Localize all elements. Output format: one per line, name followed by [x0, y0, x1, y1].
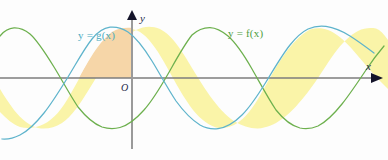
trig-curves-figure: y = g(x) y = f(x) y x O: [0, 0, 388, 160]
y-axis-label: y: [139, 12, 145, 24]
label-f-function: y = f(x): [228, 27, 263, 40]
figure-canvas: y = g(x) y = f(x) y x O: [0, 0, 388, 160]
origin-label: O: [121, 82, 128, 93]
x-axis-label: x: [365, 60, 371, 72]
label-g-function: y = g(x): [78, 29, 115, 42]
